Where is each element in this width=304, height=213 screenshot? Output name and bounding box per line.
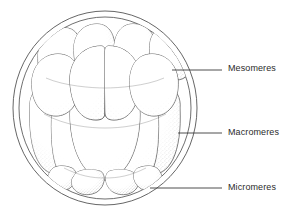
- figure-canvas: Mesomeres Macromeres Micromeres: [0, 0, 304, 213]
- label-mesomeres: Mesomeres: [228, 64, 276, 73]
- label-micromeres: Micromeres: [228, 183, 276, 192]
- label-macromeres: Macromeres: [228, 128, 279, 137]
